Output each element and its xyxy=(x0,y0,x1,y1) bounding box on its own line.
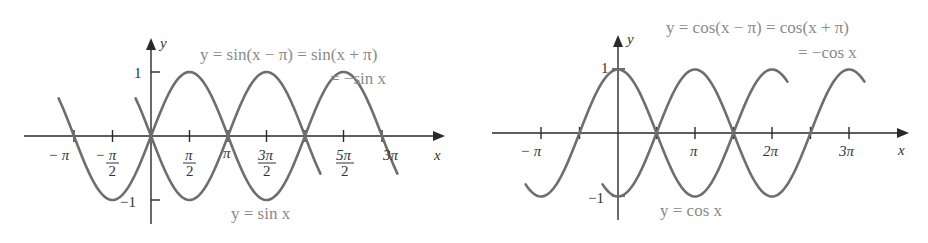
left-xtick-3half-pi-den: 2 xyxy=(263,163,271,179)
right-label-cos: y = cos x xyxy=(660,201,722,220)
left-y-label: y xyxy=(158,35,167,51)
left-xtick-pi: π xyxy=(223,145,231,161)
right-label-shifted-line2: = −cos x xyxy=(798,43,857,62)
left-x-arrow-icon xyxy=(433,131,445,141)
right-y-arrow-icon xyxy=(613,35,623,47)
right-x-arrow-icon xyxy=(897,128,909,138)
left-x-label: x xyxy=(433,147,441,163)
left-xtick-neg-half-pi-den: 2 xyxy=(109,163,117,179)
left-xtick-neg-half-pi-num: − π xyxy=(95,147,117,163)
right-x-label: x xyxy=(897,142,905,158)
right-xtick-3pi: 3π xyxy=(838,143,855,159)
left-ytick-1-label: 1 xyxy=(134,65,142,81)
left-xtick-neg-pi: − π xyxy=(48,147,70,163)
left-ytick-neg1-label: −1 xyxy=(120,194,136,210)
left-label-shifted-line1: y = sin(x − π) = sin(x + π) xyxy=(200,45,377,64)
right-label-shifted-line1: y = cos(x − π) = cos(x + π) xyxy=(666,18,849,37)
right-ytick-1-label: 1 xyxy=(601,60,609,76)
left-chart: y x 1 −1 − π − π 2 π 2 π 3π 2 5π 2 3π y … xyxy=(24,35,445,224)
left-xtick-half-pi-den: 2 xyxy=(186,163,194,179)
left-label-sin: y = sin x xyxy=(231,204,291,223)
left-xtick-5half-pi-den: 2 xyxy=(341,163,349,179)
right-ytick-neg1-label: −1 xyxy=(588,190,604,206)
right-y-label: y xyxy=(625,31,634,47)
right-xtick-neg-pi: − π xyxy=(520,143,542,159)
right-chart: y x 1 −1 − π π 2π 3π y = cos(x − π) = co… xyxy=(492,18,909,220)
left-y-arrow-icon xyxy=(146,38,156,50)
left-xtick-3pi: 3π xyxy=(382,147,399,163)
left-xtick-3half-pi-num: 3π xyxy=(257,147,274,163)
left-xtick-5half-pi-num: 5π xyxy=(336,147,352,163)
right-xtick-2pi: 2π xyxy=(763,143,779,159)
left-xtick-half-pi-num: π xyxy=(185,147,193,163)
right-xtick-pi: π xyxy=(690,143,698,159)
figure: y x 1 −1 − π − π 2 π 2 π 3π 2 5π 2 3π y … xyxy=(0,0,928,243)
left-label-shifted-line2: = −sin x xyxy=(330,69,387,88)
